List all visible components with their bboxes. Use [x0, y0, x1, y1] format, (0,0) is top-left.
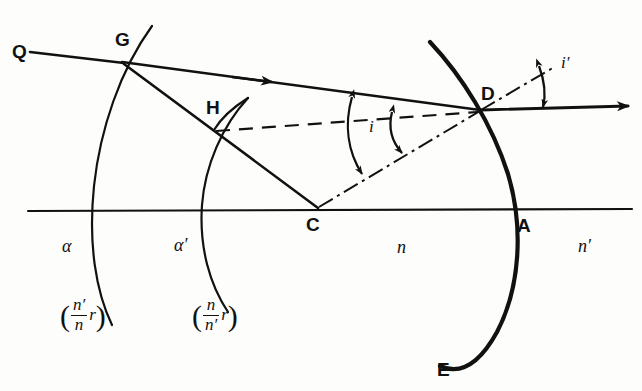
radius-expression-alpha: ( n′ n r )	[60, 296, 106, 335]
optical-axis	[28, 209, 632, 211]
fraction-denominator: n	[73, 316, 86, 335]
emergent-ray	[481, 106, 628, 110]
fraction-tail: r	[89, 305, 96, 325]
open-paren: (	[192, 302, 202, 329]
fraction-stack: n′ n	[71, 296, 87, 335]
angle-arc-i-outer	[348, 97, 362, 174]
point-label-D: D	[481, 84, 495, 103]
point-label-H: H	[206, 98, 220, 117]
normal-line-c-d	[319, 111, 480, 207]
point-label-C: C	[306, 215, 320, 234]
incident-ray-segment-q-g	[30, 52, 124, 63]
point-label-G: G	[115, 30, 130, 49]
angle-label-i-prime: i′	[561, 54, 569, 71]
arc-alpha	[92, 26, 152, 325]
fraction-tail: r	[221, 305, 228, 325]
close-paren: )	[96, 302, 106, 329]
point-label-E: E	[437, 360, 450, 379]
fraction-denominator: n′	[203, 316, 219, 335]
refracting-surface	[430, 42, 518, 369]
arc-label-alpha: α	[62, 237, 71, 255]
optics-ray-diagram: Q G H C D A E α α′ n n′ i i′ ( n′ n r ) …	[0, 0, 642, 391]
point-label-Q: Q	[12, 42, 27, 61]
medium-label-n: n	[397, 238, 406, 256]
fraction-numerator: n	[205, 296, 218, 315]
fraction-numerator: n′	[71, 296, 87, 315]
fraction-stack: n n′	[203, 296, 219, 335]
incident-ray-direction-arrow	[232, 77, 272, 82]
arc-label-alpha-prime: α′	[174, 236, 187, 254]
angle-label-i: i	[369, 118, 374, 135]
medium-label-n-prime: n′	[578, 237, 591, 255]
point-label-A: A	[517, 216, 531, 235]
close-paren: )	[228, 302, 238, 329]
radius-expression-alpha-prime: ( n n′ r )	[192, 296, 238, 335]
open-paren: (	[60, 302, 70, 329]
